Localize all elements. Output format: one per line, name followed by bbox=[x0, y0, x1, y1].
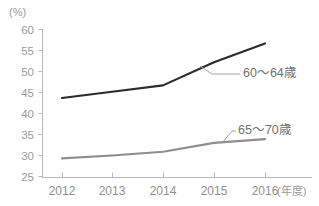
y-axis-ticks bbox=[39, 30, 43, 177]
line-chart: (%) 60 55 50 45 40 35 30 25 bbox=[0, 0, 319, 206]
x-axis-ticks bbox=[63, 173, 266, 178]
series-label-upper: 60〜64歳 bbox=[243, 67, 297, 80]
x-axis-unit-label: (年度) bbox=[277, 186, 306, 197]
series-label-lower: 65〜70歳 bbox=[238, 124, 292, 137]
x-tick-label: 2015 bbox=[201, 185, 228, 197]
x-tick-label: 2016 bbox=[252, 185, 279, 197]
series-line-lower bbox=[62, 139, 265, 158]
leader-line-upper bbox=[200, 66, 240, 74]
x-tick-label: 2013 bbox=[99, 185, 126, 197]
x-tick-label: 2014 bbox=[150, 185, 177, 197]
series-line-upper bbox=[62, 43, 265, 98]
chart-plot-area bbox=[0, 0, 319, 206]
x-tick-label: 2012 bbox=[49, 185, 76, 197]
